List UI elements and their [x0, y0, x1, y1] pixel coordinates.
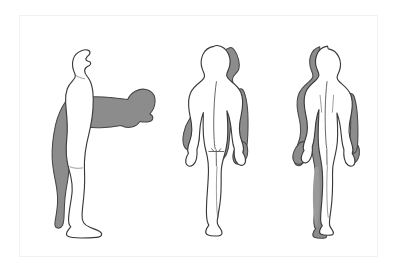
body-outline-frontal [301, 46, 355, 235]
figure-posterior-svg [155, 16, 280, 256]
figure-frontal-panel [275, 16, 385, 256]
figure-lateral-panel [25, 16, 160, 256]
body-outline-posterior [186, 46, 246, 237]
illustration-canvas: Three nude human figures in line-drawing… [0, 0, 404, 278]
figure-lateral-svg [25, 16, 160, 256]
figure-frontal-svg [275, 16, 385, 256]
illustration-frame [19, 15, 378, 257]
figure-posterior-panel [155, 16, 280, 256]
body-outline-lateral [66, 50, 102, 238]
